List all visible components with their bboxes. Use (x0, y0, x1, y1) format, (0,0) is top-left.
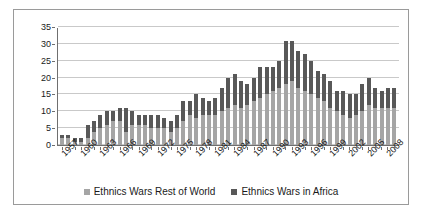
bar-segment-africa (188, 101, 192, 114)
bar-segment-africa (277, 61, 281, 88)
bar-segment-africa (380, 91, 384, 108)
bar-segment-africa (335, 91, 339, 111)
bar-2006 (373, 88, 377, 145)
y-axis-tick-label: 20 (41, 74, 51, 83)
bar-segment-africa (341, 91, 345, 115)
y-axis-tick-mark (52, 145, 55, 146)
y-axis-tick-mark (52, 44, 55, 45)
y-axis-tick-mark (52, 78, 55, 79)
bar-1984 (233, 74, 237, 145)
bar-2000 (335, 91, 339, 145)
bar-segment-africa (303, 54, 307, 91)
bar-1994 (296, 51, 300, 145)
legend-item-1[interactable]: Ethnics Wars in Africa (231, 186, 338, 197)
y-axis-tick-mark (52, 61, 55, 62)
bar-1986 (245, 84, 249, 145)
x-axis-tick-mark (222, 147, 223, 150)
bar-segment-africa (316, 71, 320, 98)
bar-1992 (284, 41, 288, 146)
bar-segment-africa (124, 108, 128, 132)
bar-1988 (258, 67, 262, 145)
y-axis-tick-label: 0 (46, 141, 51, 150)
bar-segment-africa (98, 115, 102, 128)
bar-segment-rest-of-world (328, 108, 332, 145)
bar-segment-rest-of-world (386, 108, 390, 145)
bar-segment-africa (86, 125, 90, 138)
bar-segment-rest-of-world (60, 138, 64, 145)
bar-segment-africa (175, 115, 179, 128)
x-axis-tick-mark (260, 147, 261, 150)
x-axis-tick-mark (362, 147, 363, 150)
bar-segment-rest-of-world (271, 91, 275, 145)
bar-segment-africa (360, 84, 364, 111)
bar-1990 (271, 67, 275, 145)
bar-segment-rest-of-world (194, 118, 198, 145)
x-axis-tick-mark (343, 147, 344, 150)
bar-segment-rest-of-world (284, 84, 288, 145)
y-axis-tick-label: 30 (41, 40, 51, 49)
y-axis-tick-mark (52, 111, 55, 112)
bar-segment-africa (92, 121, 96, 131)
bar-segment-rest-of-world (296, 88, 300, 145)
bar-1987 (252, 78, 256, 145)
bar-segment-rest-of-world (367, 105, 371, 145)
bar-1975 (175, 115, 179, 145)
bar-segment-africa (156, 115, 160, 128)
bar-2003 (354, 94, 358, 145)
bar-2004 (360, 84, 364, 145)
x-axis-tick-mark (324, 147, 325, 150)
bar-segment-africa (201, 98, 205, 115)
x-axis-tick-mark (183, 147, 184, 150)
x-axis-tick-mark (375, 147, 376, 150)
bar-segment-africa (130, 111, 134, 124)
y-axis-tick-mark (52, 94, 55, 95)
bar-segment-africa (220, 88, 224, 112)
bar-segment-africa (149, 115, 153, 128)
x-axis: 1957196019631966196919721975197819811984… (57, 147, 399, 187)
bar-segment-africa (386, 88, 390, 108)
bar-segment-rest-of-world (98, 128, 102, 145)
bar-2009 (392, 88, 396, 145)
bar-1982 (220, 88, 224, 145)
legend-item-0[interactable]: Ethnics Wars Rest of World (84, 186, 216, 197)
y-axis-tick-label: 10 (41, 107, 51, 116)
bar-2008 (386, 88, 390, 145)
bar-segment-rest-of-world (118, 121, 122, 145)
chart-frame: 05101520253035 1957196019631966196919721… (13, 9, 409, 205)
bar-segment-africa (392, 88, 396, 108)
y-axis-tick-mark (52, 27, 55, 28)
bar-1993 (290, 41, 294, 146)
bar-segment-africa (245, 84, 249, 104)
x-axis-tick-mark (381, 147, 382, 150)
bar-1969 (137, 115, 141, 145)
legend-square-marker-icon (231, 189, 237, 195)
bar-segment-africa (284, 41, 288, 85)
bar-segment-africa (169, 121, 173, 131)
x-axis-tick-mark (171, 147, 172, 150)
bar-segment-africa (105, 111, 109, 124)
x-axis-tick-mark (279, 147, 280, 150)
x-axis-tick-mark (69, 147, 70, 150)
bar-segment-africa (309, 61, 313, 95)
bar-segment-rest-of-world (252, 101, 256, 145)
x-axis-tick-mark (266, 147, 267, 150)
y-axis-tick-label: 5 (46, 124, 51, 133)
x-axis-tick-mark (113, 147, 114, 150)
legend-square-marker-icon (84, 189, 90, 195)
bar-segment-rest-of-world (233, 105, 237, 145)
bar-1978 (194, 94, 198, 145)
x-axis-tick-mark (88, 147, 89, 150)
x-axis-tick-mark (164, 147, 165, 150)
bar-segment-africa (252, 78, 256, 102)
bar-segment-africa (226, 78, 230, 108)
bar-2002 (348, 94, 352, 145)
x-axis-tick-mark (126, 147, 127, 150)
bar-1957 (60, 135, 64, 145)
bar-segment-africa (296, 51, 300, 88)
x-axis-tick-mark (317, 147, 318, 150)
legend-label: Ethnics Wars Rest of World (94, 186, 216, 197)
bar-1972 (156, 115, 160, 145)
bar-segment-rest-of-world (258, 98, 262, 145)
bar-1981 (213, 98, 217, 145)
bar-segment-africa (328, 81, 332, 108)
